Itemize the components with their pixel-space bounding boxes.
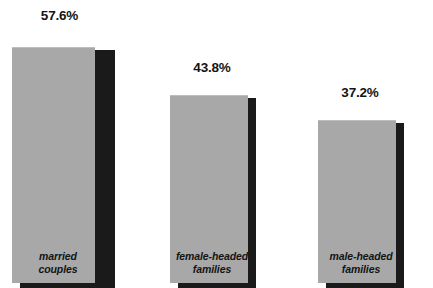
bar-label-2-line-2: families (152, 263, 272, 276)
bar-label-1: married couples (8, 250, 108, 276)
bar-face-1[interactable] (12, 47, 95, 283)
bar-chart: 57.6% married couples 43.8% female-heade… (0, 0, 433, 288)
bar-label-2-line-1: female-headed (152, 250, 272, 263)
bar-label-3: male-headed families (302, 250, 420, 276)
bar-label-3-line-2: families (302, 263, 420, 276)
bar-label-2: female-headed families (152, 250, 272, 276)
bar-value-2: 43.8% (168, 60, 256, 75)
bar-label-3-line-1: male-headed (302, 250, 420, 263)
bar-value-1: 57.6% (12, 8, 107, 23)
bar-value-3: 37.2% (316, 85, 404, 100)
bar-label-1-line-1: married (8, 250, 108, 263)
bar-label-1-line-2: couples (8, 263, 108, 276)
